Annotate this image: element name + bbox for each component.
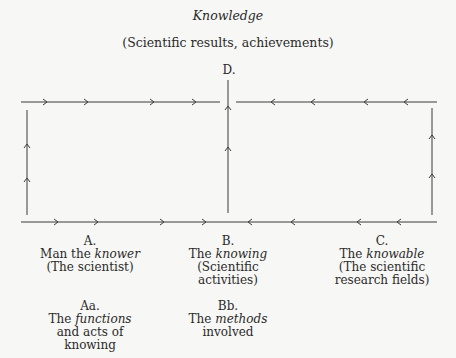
node-c-line3: research fields) [322, 274, 442, 287]
node-b: B. The knowing (Scientific activities) [178, 235, 278, 287]
node-c: C. The knowable (The scientific research… [322, 235, 442, 287]
node-a: A. Man the knower (The scientist) [30, 235, 150, 274]
node-bb-line2: involved [178, 326, 278, 339]
node-a-line2: (The scientist) [30, 261, 150, 274]
node-aa-line3: knowing [40, 339, 140, 352]
node-bb: Bb. The methods involved [178, 300, 278, 339]
node-b-line3: activities) [178, 274, 278, 287]
node-aa: Aa. The functions and acts of knowing [40, 300, 140, 352]
arrowheads [24, 99, 435, 225]
